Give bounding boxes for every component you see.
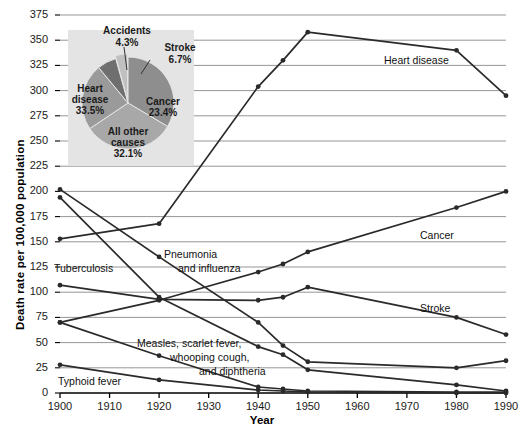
pie-label-stroke-pct: 6.7% — [152, 54, 208, 65]
series-label-pneumonia-line1: Pneumonia — [164, 248, 217, 260]
y-tick-label: 250 — [14, 134, 48, 146]
series-label-measles-line2: whooping cough, — [170, 351, 249, 363]
pie-label-other-name2: causes — [95, 137, 161, 148]
y-tick-label: 75 — [14, 310, 48, 322]
series-label-tuberculosis: Tuberculosis — [54, 262, 113, 274]
series-label-measles-line1: Measles, scarlet fever, — [137, 337, 241, 349]
x-tick-label: 1960 — [337, 400, 377, 412]
series-label-typhoid-fever: Typhoid fever — [58, 375, 121, 387]
pie-label-heart-name2: disease — [62, 94, 118, 105]
x-tick-label: 1980 — [436, 400, 476, 412]
pie-label-cancer-pct: 23.4% — [135, 107, 191, 118]
series-label-pneumonia-line2: and influenza — [178, 262, 240, 274]
x-tick-label: 1910 — [90, 400, 130, 412]
x-tick-label: 1900 — [40, 400, 80, 412]
y-tick-label: 100 — [14, 285, 48, 297]
series-label-heart-disease: Heart disease — [384, 54, 449, 66]
x-tick-label: 1950 — [288, 400, 328, 412]
y-tick-label: 375 — [14, 8, 48, 20]
pie-label-other-name1: All other — [95, 126, 161, 137]
x-axis-title: Year — [0, 414, 524, 426]
y-tick-label: 150 — [14, 235, 48, 247]
pie-label-heart-pct: 33.5% — [62, 105, 118, 116]
x-tick-label: 1930 — [189, 400, 229, 412]
series-label-stroke: Stroke — [420, 302, 450, 314]
x-tick-label: 1990 — [486, 400, 524, 412]
x-tick-label: 1920 — [139, 400, 179, 412]
y-tick-label: 125 — [14, 260, 48, 272]
y-tick-label: 50 — [14, 336, 48, 348]
pie-label-other-pct: 32.1% — [95, 148, 161, 159]
y-tick-label: 200 — [14, 184, 48, 196]
series-label-cancer: Cancer — [420, 229, 454, 241]
x-tick-label: 1970 — [387, 400, 427, 412]
pie-label-stroke-name: Stroke — [152, 42, 208, 53]
y-tick-label: 275 — [14, 109, 48, 121]
pie-label-heart-name1: Heart — [62, 83, 118, 94]
series-label-measles-line3: and diphtheria — [199, 365, 266, 377]
y-tick-label: 325 — [14, 58, 48, 70]
y-tick-label: 300 — [14, 84, 48, 96]
y-tick-label: 175 — [14, 210, 48, 222]
pie-label-cancer-name: Cancer — [135, 96, 191, 107]
y-tick-label: 0 — [14, 386, 48, 398]
y-tick-label: 225 — [14, 159, 48, 171]
pie-label-accidents-name: Accidents — [92, 25, 162, 36]
y-tick-label: 25 — [14, 361, 48, 373]
x-tick-label: 1940 — [238, 400, 278, 412]
y-tick-label: 350 — [14, 33, 48, 45]
death-rate-chart-figure: Death rate per 100,000 population Year 3… — [0, 0, 524, 440]
